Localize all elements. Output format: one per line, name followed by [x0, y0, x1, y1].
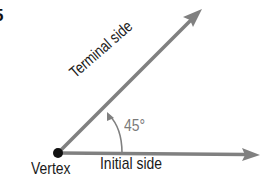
angle-measure-label: 45°	[124, 117, 145, 134]
vertex-dot	[53, 148, 63, 158]
angle-arc	[109, 115, 122, 153]
vertex-label: Vertex	[31, 160, 71, 177]
initial-side-label: Initial side	[100, 155, 162, 172]
